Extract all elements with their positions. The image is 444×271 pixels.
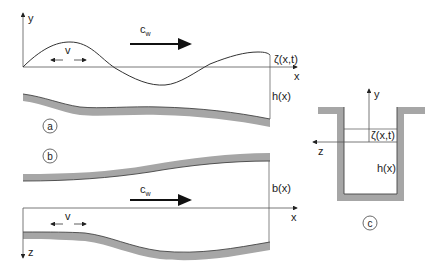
panel-c-depth-label: h(x) — [377, 162, 396, 174]
panel-b-wave-speed-label: cw — [140, 183, 152, 197]
panel-a-marker-label: a — [47, 121, 53, 132]
panel-b-velocity-label: v — [65, 210, 71, 222]
panel-a-depth-label: h(x) — [272, 90, 291, 102]
panel-c-marker-label: c — [368, 218, 373, 229]
panel-a-y-label: y — [28, 12, 34, 24]
panel-b-top-wall — [23, 153, 270, 181]
panel-b-bottom-wall — [23, 232, 270, 260]
panel-c-cross-section: y z ζ(x,t) h(x) c — [313, 88, 425, 230]
panel-c-z-label: z — [318, 145, 324, 157]
panel-a-wave-surface — [23, 42, 270, 85]
panel-b-width-label: b(x) — [272, 182, 291, 194]
panel-a-channel-bed — [23, 94, 270, 127]
diagram-svg: y x v cw ζ(x,t) h(x) a b cw x — [0, 0, 444, 271]
panel-b-z-label: z — [28, 246, 34, 258]
panel-b-marker-label: b — [47, 151, 53, 162]
panel-c-y-label: y — [374, 88, 380, 100]
panel-c-channel-walls — [318, 107, 425, 201]
panel-c-channel-inner-edge — [344, 107, 397, 194]
channel-wave-diagram: y x v cw ζ(x,t) h(x) a b cw x — [0, 0, 444, 271]
panel-a-surface-label: ζ(x,t) — [274, 53, 298, 65]
panel-a-x-label: x — [294, 70, 300, 82]
panel-c-surface-label: ζ(x,t) — [371, 129, 395, 141]
panel-a-longitudinal-section: y x v cw ζ(x,t) h(x) a — [23, 12, 300, 133]
panel-b-plan-view: b cw x b(x) v z — [23, 149, 297, 260]
panel-b-x-label: x — [291, 211, 297, 223]
panel-a-velocity-label: v — [65, 44, 71, 56]
panel-a-wave-speed-label: cw — [140, 23, 152, 37]
